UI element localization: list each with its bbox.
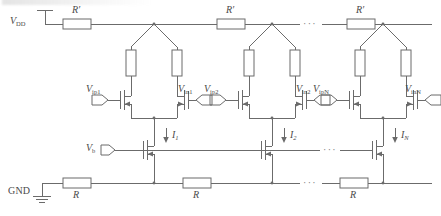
supply-resistor-1 <box>63 19 91 29</box>
ground-rail-group <box>33 178 432 202</box>
ground-resistor-3 <box>340 178 368 188</box>
stage-1-group <box>113 24 195 184</box>
ground-resistor-1 <box>63 178 91 188</box>
label-ground-resistor-2: R <box>193 190 199 200</box>
label-supply-resistor-3: R′ <box>356 5 364 15</box>
ellipsis-supply-rail: ··· <box>303 18 317 29</box>
circuit-schematic-svg <box>0 0 441 216</box>
label-vin1: Vin1 <box>178 84 192 94</box>
current-arrow-1 <box>163 128 169 143</box>
label-current-N: IN <box>401 130 409 140</box>
label-vipN: VipN <box>313 84 329 94</box>
label-vdd: VDD <box>10 16 26 26</box>
label-vip1: Vip1 <box>86 84 100 94</box>
load-resistor-2p <box>244 50 254 76</box>
label-current-2: I2 <box>290 130 297 140</box>
supply-resistor-2 <box>217 19 245 29</box>
stage-N-group <box>342 24 424 184</box>
current-arrow-N <box>392 128 398 143</box>
label-supply-resistor-2: R′ <box>226 5 234 15</box>
load-resistor-Np <box>355 50 365 76</box>
schematic-canvas: VDD GND Vb R′ R′ R′ R R R Vip1 Vin1 Vip2… <box>0 0 441 216</box>
supply-resistor-3 <box>347 19 375 29</box>
tail-mosfet-N <box>353 140 383 183</box>
ellipsis-ground-rail: ··· <box>303 177 317 188</box>
label-ground-resistor-3: R <box>350 190 356 200</box>
load-resistor-1p <box>126 50 136 76</box>
label-current-1: I1 <box>172 130 179 140</box>
tail-mosfet-2 <box>249 140 272 183</box>
label-supply-resistor-1: R′ <box>72 5 80 15</box>
label-vb: Vb <box>86 143 95 153</box>
mosfet-2p <box>231 90 249 118</box>
mosfet-1p <box>113 90 131 118</box>
stage-2-group <box>231 23 313 185</box>
label-vip2: Vip2 <box>204 84 218 94</box>
ellipsis-bias-rail: ··· <box>323 144 337 155</box>
ground-resistor-2 <box>183 178 211 188</box>
current-arrow-2 <box>281 128 287 143</box>
supply-rail-group <box>37 10 432 29</box>
load-resistor-1n <box>172 50 182 76</box>
load-resistor-2n <box>290 50 300 76</box>
label-ground-resistor-1: R <box>73 190 79 200</box>
load-resistor-Nn <box>401 50 411 76</box>
tail-mosfet-1 <box>118 140 154 183</box>
label-vinN: VinN <box>405 84 421 94</box>
label-gnd: GND <box>8 186 30 196</box>
mosfet-Np <box>342 90 360 118</box>
label-vin2: Vin2 <box>296 84 310 94</box>
